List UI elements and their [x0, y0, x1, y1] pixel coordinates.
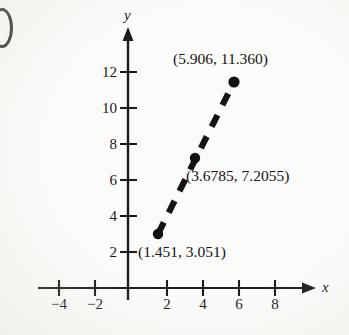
y-tick-label-12: 12 — [85, 65, 117, 80]
y-axis-arrowhead — [123, 27, 134, 41]
x-tick-label-4: 4 — [199, 297, 207, 312]
data-point-2 — [190, 153, 200, 163]
point-label-top: (5.906, 11.360) — [173, 51, 268, 67]
y-tick-label-8: 8 — [85, 137, 117, 152]
y-tick-label-2: 2 — [85, 245, 117, 260]
x-tick-label-2: 2 — [163, 297, 171, 312]
y-tick-label-4: 4 — [85, 209, 117, 224]
x-tick-label-neg2: −2 — [87, 297, 103, 312]
y-tick-label-6: 6 — [85, 173, 117, 188]
graph-figure: −4 −2 2 4 6 8 2 4 6 8 10 12 y x (5.906, … — [0, 0, 349, 335]
point-label-middle: (3.6785, 7.2055) — [186, 168, 289, 184]
x-axis-arrowhead — [302, 283, 316, 294]
y-axis-label: y — [124, 8, 131, 23]
y-tick-label-10: 10 — [85, 101, 117, 116]
x-tick-label-6: 6 — [235, 297, 243, 312]
data-point-1 — [153, 229, 163, 239]
point-label-bottom: (1.451, 3.051) — [138, 244, 226, 260]
x-tick-label-8: 8 — [271, 297, 279, 312]
x-axis-label: x — [322, 280, 329, 295]
x-tick-label-neg4: −4 — [51, 297, 67, 312]
data-point-3 — [228, 76, 239, 87]
